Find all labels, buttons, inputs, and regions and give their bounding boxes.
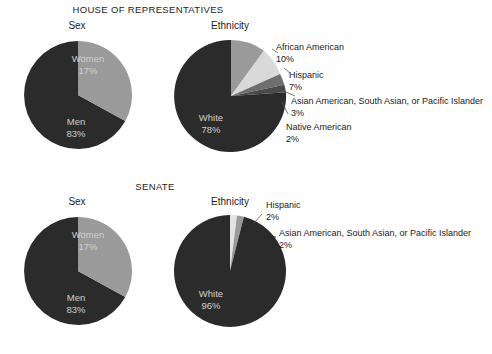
callout-name: Native American [286, 122, 352, 132]
pie-label-name: Women [72, 229, 105, 240]
pie-label-senate-ethnicity-white: White 96% [176, 288, 246, 311]
callout-name: Hispanic [289, 70, 324, 80]
figure-canvas: HOUSE OF REPRESENTATIVES Sex Men 83% Wom… [0, 0, 492, 354]
pie-label-name: White [199, 288, 223, 299]
leader-line-native-american [282, 102, 288, 114]
callout-house-hispanic: Hispanic 7% [289, 70, 324, 93]
callout-senate-asian-american: Asian American, South Asian, or Pacific … [279, 228, 471, 251]
callout-pct: 10% [276, 54, 344, 66]
callout-name: Asian American, South Asian, or Pacific … [279, 228, 471, 238]
pie-label-pct: 83% [66, 128, 85, 139]
callout-name: Hispanic [266, 200, 301, 210]
pie-label-name: Women [72, 53, 105, 64]
pie-label-pct: 96% [201, 300, 220, 311]
section-title-senate: SENATE [105, 181, 205, 192]
callout-name: Asian American, South Asian, or Pacific … [291, 96, 483, 106]
callout-name: African American [276, 42, 344, 52]
callout-pct: 7% [289, 82, 324, 94]
callout-house-native-american: Native American 2% [286, 122, 352, 145]
callout-pct: 2% [286, 134, 352, 146]
callout-pct: 3% [291, 108, 483, 120]
pie-label-senate-sex-women: Women 17% [57, 229, 119, 252]
pie-label-pct: 78% [201, 124, 220, 135]
pie-label-pct: 83% [66, 304, 85, 315]
pie-label-name: Men [67, 292, 85, 303]
pie-label-senate-sex-men: Men 83% [40, 292, 112, 315]
chart-title-house-ethnicity: Ethnicity [190, 20, 270, 31]
callout-senate-hispanic: Hispanic 2% [266, 200, 301, 223]
callout-house-african-american: African American 10% [276, 42, 344, 65]
section-title-house: HOUSE OF REPRESENTATIVES [48, 4, 248, 15]
pie-label-house-ethnicity-white: White 78% [176, 112, 246, 135]
pie-label-house-sex-women: Women 17% [57, 53, 119, 76]
pie-label-pct: 17% [78, 65, 97, 76]
chart-title-house-sex: Sex [37, 20, 117, 31]
pie-label-house-sex-men: Men 83% [40, 116, 112, 139]
pie-label-name: Men [67, 116, 85, 127]
chart-title-senate-ethnicity: Ethnicity [190, 196, 270, 207]
callout-pct: 2% [266, 212, 301, 224]
pie-label-pct: 17% [78, 241, 97, 252]
chart-title-senate-sex: Sex [37, 196, 117, 207]
leader-line-senate-hispanic [254, 214, 262, 223]
callout-pct: 2% [279, 240, 471, 252]
pie-label-name: White [199, 112, 223, 123]
callout-house-asian-american: Asian American, South Asian, or Pacific … [291, 96, 483, 119]
